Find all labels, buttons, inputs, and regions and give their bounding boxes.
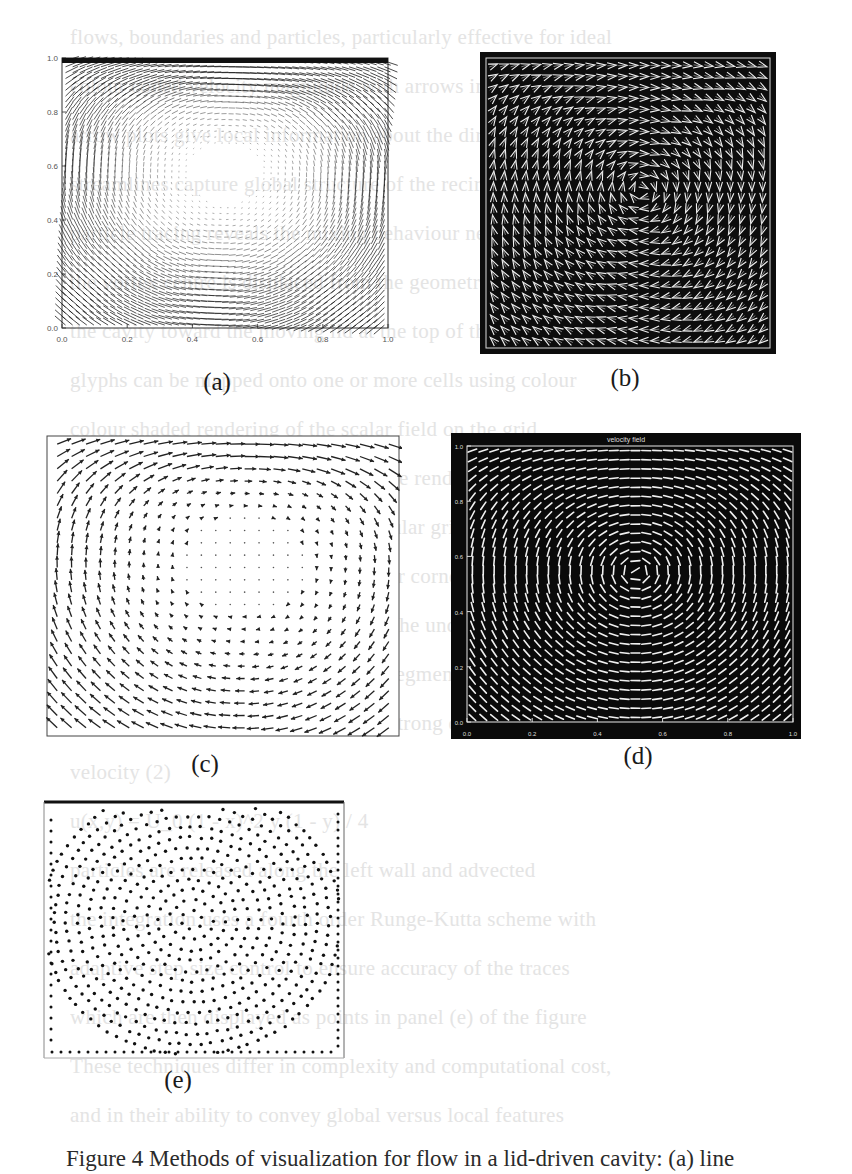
vector-field-b bbox=[480, 52, 776, 354]
svg-text:0.6: 0.6 bbox=[658, 731, 667, 737]
bleed-line: and in their ability to convey global ve… bbox=[70, 1100, 832, 1131]
bleed-line: flows, boundaries and particles, particu… bbox=[70, 22, 832, 53]
svg-text:0.8: 0.8 bbox=[47, 108, 59, 117]
svg-text:0.8: 0.8 bbox=[317, 335, 329, 344]
figure-caption: Figure 4 Methods of visualization for fl… bbox=[66, 1146, 734, 1172]
svg-text:0.4: 0.4 bbox=[455, 610, 464, 616]
panel-e-label: (e) bbox=[153, 1066, 203, 1094]
panel-b-chevron-vector-plot bbox=[480, 52, 776, 354]
svg-text:1.0: 1.0 bbox=[455, 444, 464, 450]
panel-d-label: (d) bbox=[613, 742, 663, 770]
svg-text:0.0: 0.0 bbox=[47, 324, 59, 333]
svg-text:0.0: 0.0 bbox=[455, 720, 464, 726]
bleed-line: glyphs can be mapped onto one or more ce… bbox=[70, 365, 832, 396]
vector-field-d: velocity field0.00.00.20.20.40.40.60.60.… bbox=[451, 433, 801, 739]
svg-text:0.6: 0.6 bbox=[455, 554, 464, 560]
panel-d-velocity-field: velocity field0.00.00.20.20.40.40.60.60.… bbox=[451, 433, 801, 739]
svg-text:0.2: 0.2 bbox=[528, 731, 537, 737]
svg-text:0.2: 0.2 bbox=[122, 335, 134, 344]
svg-text:0.8: 0.8 bbox=[724, 731, 733, 737]
svg-text:0.8: 0.8 bbox=[455, 499, 464, 505]
panel-c-arrow-plot bbox=[46, 432, 402, 738]
vector-field-c bbox=[46, 432, 402, 738]
svg-text:0.4: 0.4 bbox=[593, 731, 602, 737]
svg-text:0.0: 0.0 bbox=[56, 335, 68, 344]
svg-text:1.0: 1.0 bbox=[47, 54, 59, 63]
panel-a-line-vector-plot: 0.00.00.20.20.40.40.60.60.80.81.01.0 bbox=[28, 50, 398, 355]
svg-text:0.4: 0.4 bbox=[47, 216, 59, 225]
svg-text:1.0: 1.0 bbox=[789, 731, 798, 737]
svg-text:0.6: 0.6 bbox=[47, 162, 59, 171]
panel-e-particle-plot bbox=[42, 800, 346, 1060]
panel-c-label: (c) bbox=[180, 750, 230, 778]
svg-text:0.0: 0.0 bbox=[463, 731, 472, 737]
svg-text:0.2: 0.2 bbox=[47, 270, 59, 279]
svg-text:1.0: 1.0 bbox=[382, 335, 394, 344]
svg-text:0.6: 0.6 bbox=[252, 335, 264, 344]
panel-b-label: (b) bbox=[600, 364, 650, 392]
vector-field-a: 0.00.00.20.20.40.40.60.60.80.81.01.0 bbox=[28, 50, 398, 355]
svg-text:0.4: 0.4 bbox=[187, 335, 199, 344]
particle-field-e bbox=[42, 800, 346, 1060]
svg-text:0.2: 0.2 bbox=[455, 665, 464, 671]
panel-a-label: (a) bbox=[192, 368, 242, 396]
svg-text:velocity field: velocity field bbox=[607, 436, 645, 444]
